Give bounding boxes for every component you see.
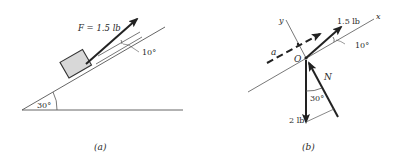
axis-intersection-dot bbox=[297, 43, 299, 45]
force-triangle-line bbox=[306, 109, 334, 122]
force-angle-arc bbox=[121, 40, 122, 44]
force-label: F = 1.5 lb bbox=[77, 23, 121, 33]
figure-b: x y a O 1.5 lb 10° 2 lb N 30° (b) bbox=[248, 12, 381, 152]
acceleration-label: a bbox=[271, 47, 276, 57]
x-axis-label: x bbox=[376, 12, 381, 21]
weight-label: 2 lb bbox=[289, 116, 304, 125]
applied-force-arrow bbox=[306, 27, 341, 58]
applied-angle-arc bbox=[333, 37, 334, 42]
y-axis-label: y bbox=[278, 16, 284, 25]
figure-b-caption: (b) bbox=[302, 142, 315, 152]
incline-line bbox=[22, 27, 165, 110]
normal-label: N bbox=[323, 72, 333, 82]
normal-angle-arc bbox=[306, 88, 322, 91]
figure-a-caption: (a) bbox=[94, 142, 107, 152]
origin-label: O bbox=[294, 54, 302, 64]
figure-a: 30° 10° F = 1.5 lb (a) bbox=[22, 19, 183, 152]
incline-reference-line bbox=[96, 37, 142, 64]
free-body-diagram-figure: 30° 10° F = 1.5 lb (a) x y a O 1.5 bbox=[0, 0, 402, 164]
y-axis bbox=[286, 20, 306, 58]
applied-force-label: 1.5 lb bbox=[337, 17, 360, 26]
applied-angle-leader bbox=[336, 40, 345, 44]
incline-angle-arc bbox=[53, 92, 57, 110]
x-axis bbox=[248, 19, 374, 92]
incline-angle-label: 30° bbox=[37, 101, 51, 110]
normal-angle-label: 30° bbox=[310, 94, 324, 103]
force-angle-leader bbox=[123, 44, 139, 52]
force-angle-label: 10° bbox=[142, 48, 156, 57]
applied-angle-label: 10° bbox=[355, 41, 369, 50]
